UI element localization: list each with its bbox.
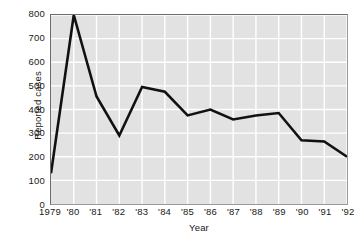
series-line-reported-cases [51, 15, 347, 173]
x-tick-label: '85 [181, 206, 194, 218]
plot-area [50, 14, 348, 205]
x-tick-label: '92 [342, 206, 355, 218]
x-tick-label: '88 [250, 206, 263, 218]
x-tick-label: '82 [112, 206, 125, 218]
x-tick-label: '87 [227, 206, 240, 218]
x-tick-label: '90 [296, 206, 309, 218]
y-tick-label: 800 [29, 9, 45, 19]
line-chart-figure: Reported cases 0100200300400500600700800… [0, 0, 361, 242]
y-tick-label: 200 [29, 152, 45, 162]
x-tick-label: '80 [66, 206, 79, 218]
y-tick-label: 500 [29, 81, 45, 91]
x-tick-label: '84 [158, 206, 171, 218]
data-series-line [51, 15, 347, 204]
x-axis-tick-labels: 1979'80'81'82'83'84'85'86'87'88'89'90'91… [0, 206, 361, 222]
x-tick-label: 1979 [39, 206, 61, 218]
x-tick-label: '81 [89, 206, 102, 218]
x-axis-title: Year [50, 222, 348, 233]
y-tick-label: 600 [29, 57, 45, 67]
y-tick-label: 700 [29, 33, 45, 43]
y-tick-label: 400 [29, 105, 45, 115]
x-tick-label: '86 [204, 206, 217, 218]
x-tick-label: '89 [273, 206, 286, 218]
x-tick-label: '83 [135, 206, 148, 218]
y-tick-label: 300 [29, 128, 45, 138]
x-tick-label: '91 [319, 206, 332, 218]
y-tick-label: 100 [29, 176, 45, 186]
